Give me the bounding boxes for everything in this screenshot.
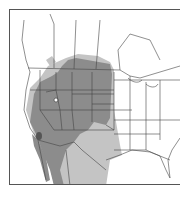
range-map [10, 10, 180, 185]
isolated-spot-utah [54, 98, 58, 102]
map-frame [9, 9, 180, 185]
